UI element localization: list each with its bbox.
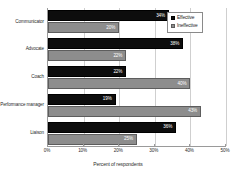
x-axis-tick-label: 30% [149,149,158,154]
bar-value-label: 38% [170,41,179,46]
legend-swatch-icon [171,24,175,28]
bar-ineffective: 43% [48,106,201,117]
bar-effective: 22% [48,66,126,77]
y-axis-tick-label: Communicator [15,20,44,25]
bar-value-label: 20% [106,26,115,31]
legend-item-effective: Effective [171,16,198,21]
legend-label: Ineffective [177,24,198,29]
x-axis-tick-mark [118,144,119,147]
x-axis-tick-mark [47,144,48,147]
x-axis-tick-label: 40% [185,149,194,154]
y-axis-tick-label: Liaison [30,131,44,136]
x-axis-tick-mark [154,144,155,147]
x-axis-tick-label: 10% [78,149,87,154]
bar-effective: 36% [48,122,176,133]
x-axis-title: Percent of respondents [0,162,236,167]
y-axis-category-labels: Communicator Advocate Coach Performance … [0,8,47,147]
bar-ineffective: 25% [48,134,137,145]
y-axis-tick-label: Coach [31,75,44,80]
bar-value-label: 36% [163,125,172,130]
legend-swatch-icon [171,16,175,20]
chart-legend: Effective Ineffective [167,12,203,33]
bar-ineffective: 40% [48,78,190,89]
bar-value-label: 22% [113,69,122,74]
x-axis-tick-label: 50% [221,149,230,154]
legend-item-ineffective: Ineffective [171,24,198,29]
bar-value-label: 22% [113,53,122,58]
legend-label: Effective [177,16,194,21]
bar-effective: 38% [48,38,183,49]
x-axis-tick-mark [225,144,226,147]
bar-value-label: 19% [103,97,112,102]
y-axis-tick-label: Advocate [26,47,44,52]
bar-ineffective: 20% [48,22,119,33]
bar-ineffective: 22% [48,50,126,61]
x-axis-ticks: 0%10%20%30%40%50% [47,147,225,157]
bar-value-label: 43% [188,109,197,114]
bar-chart: Communicator Advocate Coach Performance … [0,0,236,178]
x-axis-tick-label: 20% [114,149,123,154]
bar-value-label: 40% [177,81,186,86]
bar-value-label: 34% [156,14,165,19]
bar-effective: 34% [48,10,169,21]
gridline [226,8,227,146]
x-axis-tick-mark [189,144,190,147]
x-axis-tick-mark [83,144,84,147]
x-axis-tick-label: 0% [44,149,50,154]
y-axis-tick-label: Performance manager [0,103,44,108]
bar-effective: 19% [48,94,116,105]
bar-value-label: 25% [124,137,133,142]
